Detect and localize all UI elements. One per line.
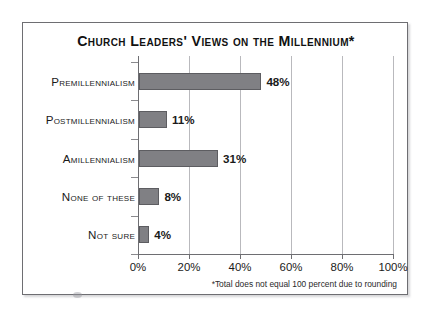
bar bbox=[139, 188, 159, 205]
x-axis-tick-label: 0% bbox=[113, 261, 163, 273]
category-label: Premillennialism bbox=[51, 73, 135, 90]
bar-row: Not sure4% bbox=[23, 226, 409, 243]
x-axis-tick bbox=[393, 255, 394, 259]
x-axis-tick bbox=[291, 255, 292, 259]
chart-title: Church Leaders' Views on the Millennium* bbox=[23, 33, 409, 49]
x-axis-tick-label: 80% bbox=[317, 261, 367, 273]
y-axis-tick bbox=[131, 139, 138, 140]
category-label: Amillennialism bbox=[63, 150, 135, 167]
bar bbox=[139, 226, 149, 243]
category-label: Postmillennialism bbox=[46, 111, 135, 128]
bar-row: Amillennialism31% bbox=[23, 150, 409, 167]
category-label: Not sure bbox=[88, 226, 135, 243]
scan-artifact-speck bbox=[73, 292, 82, 298]
y-axis-tick bbox=[131, 254, 138, 255]
y-axis-tick bbox=[131, 216, 138, 217]
bar-value-label: 4% bbox=[154, 226, 171, 243]
x-axis-tick bbox=[189, 255, 190, 259]
chart-frame: Church Leaders' Views on the Millennium*… bbox=[22, 22, 408, 295]
bar-value-label: 31% bbox=[223, 150, 246, 167]
x-axis-tick-label: 20% bbox=[164, 261, 214, 273]
x-axis-tick-label: 40% bbox=[215, 261, 265, 273]
bar-value-label: 11% bbox=[172, 111, 195, 128]
bar-value-label: 48% bbox=[266, 73, 289, 90]
x-axis-baseline bbox=[138, 254, 394, 255]
y-axis-tick bbox=[131, 62, 138, 63]
category-label: None of these bbox=[62, 188, 135, 205]
x-axis-tick bbox=[342, 255, 343, 259]
bar bbox=[139, 150, 218, 167]
bar-row: Premillennialism48% bbox=[23, 73, 409, 90]
bar bbox=[139, 111, 167, 128]
bar-value-label: 8% bbox=[164, 188, 181, 205]
x-axis-tick-label: 60% bbox=[266, 261, 316, 273]
y-axis-tick bbox=[131, 177, 138, 178]
bar-row: Postmillennialism11% bbox=[23, 111, 409, 128]
bar-row: None of these8% bbox=[23, 188, 409, 205]
x-axis-tick bbox=[138, 255, 139, 259]
y-axis-tick bbox=[131, 100, 138, 101]
x-axis-tick-label: 100% bbox=[368, 261, 418, 273]
chart-footnote: *Total does not equal 100 percent due to… bbox=[212, 279, 397, 289]
x-axis-tick bbox=[240, 255, 241, 259]
chart-figure: Church Leaders' Views on the Millennium*… bbox=[0, 0, 434, 320]
bar bbox=[139, 73, 261, 90]
